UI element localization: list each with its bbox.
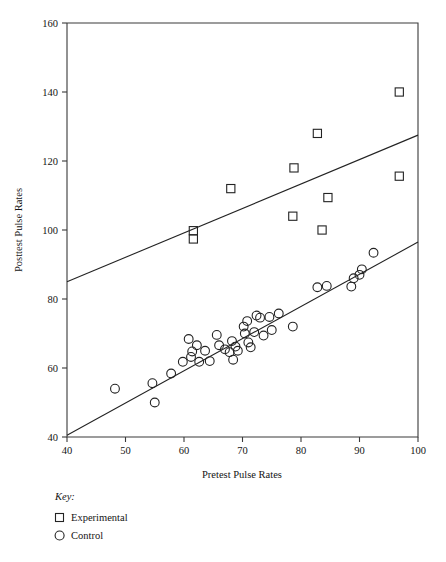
- chart-canvas: 406080100120140160 405060708090100 Postt…: [0, 0, 446, 562]
- y-axis-title: Posttest Pulse Rates: [13, 188, 24, 272]
- x-tick-label: 90: [354, 445, 365, 456]
- y-tick-label: 120: [42, 156, 58, 167]
- x-tick-label: 80: [296, 445, 307, 456]
- x-tick-label: 60: [179, 445, 190, 456]
- y-tick-label: 80: [48, 294, 59, 305]
- x-tick-label: 40: [62, 445, 73, 456]
- scatter-plot-figure: 406080100120140160 405060708090100 Postt…: [0, 0, 446, 562]
- y-tick-label: 40: [48, 432, 59, 443]
- y-tick-label: 100: [42, 225, 58, 236]
- legend-label-experimental: Experimental: [71, 512, 128, 523]
- legend-title: Key:: [54, 491, 75, 502]
- x-tick-label: 70: [237, 445, 248, 456]
- x-tick-label: 50: [120, 445, 131, 456]
- y-tick-label: 140: [42, 87, 58, 98]
- y-tick-label: 60: [48, 363, 59, 374]
- x-axis-title: Pretest Pulse Rates: [202, 469, 282, 480]
- x-tick-label: 100: [410, 445, 426, 456]
- legend-label-control: Control: [71, 530, 103, 541]
- y-tick-label: 160: [42, 18, 58, 29]
